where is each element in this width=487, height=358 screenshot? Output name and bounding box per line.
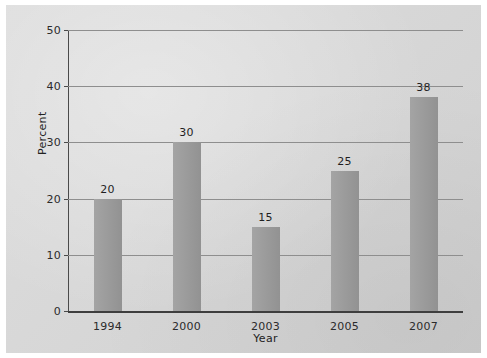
bar[interactable] bbox=[331, 171, 359, 312]
x-axis-tick-label: 2000 bbox=[172, 320, 201, 333]
bar-value-label: 30 bbox=[179, 126, 193, 139]
x-axis-line bbox=[68, 311, 463, 313]
y-axis-tick bbox=[64, 199, 68, 200]
bar-value-label: 20 bbox=[100, 183, 114, 196]
y-axis-tick bbox=[64, 311, 68, 312]
x-axis-tick-label: 2005 bbox=[330, 320, 359, 333]
gridline bbox=[68, 199, 463, 200]
plot-area: 01020304050 19942000200320052007 2030152… bbox=[68, 30, 463, 313]
y-axis-tick bbox=[64, 255, 68, 256]
y-axis-tick-label: 10 bbox=[47, 248, 61, 261]
y-axis-tick-label: 20 bbox=[47, 192, 61, 205]
y-axis-tick bbox=[64, 142, 68, 143]
gridline bbox=[68, 86, 463, 87]
bar[interactable] bbox=[94, 199, 122, 311]
bar[interactable] bbox=[252, 227, 280, 311]
x-axis-title: Year bbox=[68, 332, 463, 345]
y-axis-tick-label: 0 bbox=[54, 305, 61, 318]
gridline bbox=[68, 30, 463, 31]
bar[interactable] bbox=[410, 97, 438, 311]
figure-root: Percent Year 01020304050 199420002003200… bbox=[0, 0, 487, 358]
bar-value-label: 15 bbox=[258, 211, 272, 224]
y-axis-tick bbox=[64, 30, 68, 31]
y-axis-tick bbox=[64, 86, 68, 87]
scanned-page-surface: Percent Year 01020304050 199420002003200… bbox=[6, 5, 481, 353]
x-axis-tick-label: 1994 bbox=[93, 320, 122, 333]
bar-value-label: 25 bbox=[337, 155, 351, 168]
y-axis-tick-label: 40 bbox=[47, 80, 61, 93]
y-axis-tick-label: 30 bbox=[47, 136, 61, 149]
bar[interactable] bbox=[173, 142, 201, 311]
gridline bbox=[68, 142, 463, 143]
y-axis-line bbox=[68, 30, 69, 313]
x-axis-tick-label: 2003 bbox=[251, 320, 280, 333]
y-axis-tick-label: 50 bbox=[47, 24, 61, 37]
bar-value-label: 38 bbox=[416, 81, 430, 94]
x-axis-tick-label: 2007 bbox=[409, 320, 438, 333]
